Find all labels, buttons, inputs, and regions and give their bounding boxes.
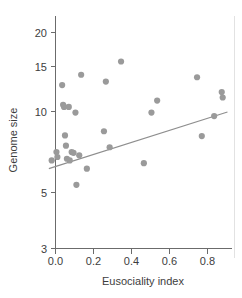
- data-point: [219, 89, 225, 95]
- y-tick-label-20: 20: [35, 27, 47, 39]
- y-axis-title: Genome size: [7, 108, 19, 173]
- y-axis-tick-labels: 20 15 10 5 3: [35, 27, 47, 255]
- data-point: [107, 144, 113, 150]
- data-point: [67, 157, 73, 163]
- data-point: [59, 82, 65, 88]
- data-point: [118, 58, 124, 64]
- data-point: [154, 97, 160, 103]
- data-point: [49, 157, 55, 163]
- x-tick-label-0.0: 0.0: [48, 255, 63, 267]
- data-point: [194, 74, 200, 80]
- data-points-group: [49, 58, 226, 187]
- data-point: [103, 78, 109, 84]
- y-axis-ticks: [51, 33, 56, 249]
- data-point: [148, 109, 154, 115]
- data-point: [211, 113, 217, 119]
- x-tick-label-0.2: 0.2: [86, 255, 101, 267]
- x-axis-ticks: [56, 249, 208, 254]
- x-axis-tick-labels: 0.0 0.2 0.4 0.6 0.8: [48, 255, 215, 267]
- data-point: [54, 154, 60, 160]
- data-point: [70, 150, 76, 156]
- data-point: [76, 152, 82, 158]
- y-tick-label-10: 10: [35, 106, 47, 118]
- y-tick-label-15: 15: [35, 61, 47, 73]
- y-tick-label-5: 5: [41, 187, 47, 199]
- chart-canvas: 20 15 10 5 3 0.0 0.2 0.4 0.6 0.8 Eusocia…: [0, 0, 242, 298]
- data-point: [199, 133, 205, 139]
- y-tick-label-3: 3: [41, 243, 47, 255]
- data-point: [73, 182, 79, 188]
- data-point: [220, 94, 226, 100]
- data-point: [141, 160, 147, 166]
- data-point: [101, 128, 107, 134]
- x-axis-title: Eusociality index: [102, 275, 184, 287]
- data-point: [72, 109, 78, 115]
- x-tick-label-0.8: 0.8: [200, 255, 215, 267]
- scatter-plot-figure: 20 15 10 5 3 0.0 0.2 0.4 0.6 0.8 Eusocia…: [0, 0, 242, 298]
- data-point: [62, 132, 68, 138]
- data-point: [66, 104, 72, 110]
- regression-trendline: [49, 112, 228, 169]
- x-tick-label-0.4: 0.4: [124, 255, 139, 267]
- data-point: [84, 166, 90, 172]
- x-tick-label-0.6: 0.6: [162, 255, 177, 267]
- data-point: [63, 143, 69, 149]
- data-point: [78, 72, 84, 78]
